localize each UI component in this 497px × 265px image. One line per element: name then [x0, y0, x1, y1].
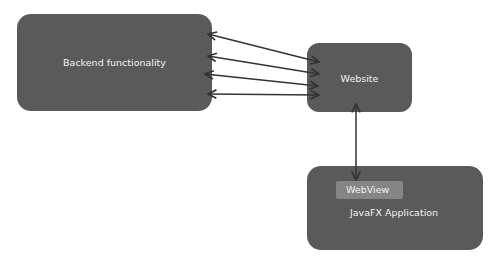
arrow-backend-website-3: [205, 74, 318, 86]
arrow-backend-website-2: [208, 56, 319, 74]
arrow-backend-website-4: [208, 94, 319, 95]
arrow-backend-website-1: [208, 34, 319, 62]
connector-arrows: [0, 0, 497, 265]
